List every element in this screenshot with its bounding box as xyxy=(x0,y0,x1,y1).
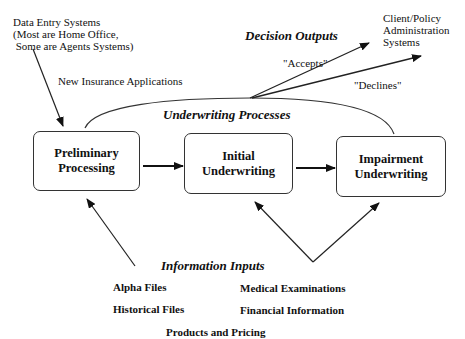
preliminary-processing-line-1: Preliminary xyxy=(54,146,118,161)
impairment-underwriting-line-1: Impairment xyxy=(355,152,428,167)
preliminary-processing-box[interactable]: Preliminary Processing xyxy=(33,131,140,191)
inputs-to-preliminary-arrow xyxy=(87,199,135,266)
accepts-arrow xyxy=(250,43,369,98)
information-inputs-heading: Information Inputs xyxy=(161,258,265,274)
initial-underwriting-line-2: Underwriting xyxy=(202,164,275,179)
financial-information-label: Financial Information xyxy=(240,304,344,316)
declines-arrow xyxy=(252,56,421,98)
impairment-underwriting-box[interactable]: Impairment Underwriting xyxy=(336,136,446,197)
accepts-label: "Accepts" xyxy=(283,57,327,69)
new-applications-arrow xyxy=(33,49,63,126)
data-entry-systems-label: Data Entry Systems (Most are Home Office… xyxy=(13,16,133,52)
data-entry-line-2: (Most are Home Office, xyxy=(13,28,133,40)
medical-examinations-label: Medical Examinations xyxy=(240,282,345,294)
client-policy-line-2: Administration xyxy=(383,24,450,36)
declines-label: "Declines" xyxy=(354,79,401,91)
preliminary-processing-line-2: Processing xyxy=(54,161,118,176)
client-policy-line-3: Systems xyxy=(383,36,450,48)
products-and-pricing-label: Products and Pricing xyxy=(166,326,265,338)
initial-underwriting-box[interactable]: Initial Underwriting xyxy=(184,133,293,194)
client-policy-line-1: Client/Policy xyxy=(383,12,450,24)
alpha-files-label: Alpha Files xyxy=(113,281,166,293)
data-entry-line-1: Data Entry Systems xyxy=(13,16,133,28)
client-policy-systems-label: Client/Policy Administration Systems xyxy=(383,12,450,48)
inputs-to-impairment-arrow xyxy=(313,203,379,262)
underwriting-processes-heading: Underwriting Processes xyxy=(163,107,290,123)
decision-outputs-heading: Decision Outputs xyxy=(245,28,338,44)
inputs-to-initial-arrow xyxy=(255,202,313,262)
initial-underwriting-line-1: Initial xyxy=(202,149,275,164)
impairment-underwriting-line-2: Underwriting xyxy=(355,167,428,182)
historical-files-label: Historical Files xyxy=(113,303,184,315)
new-insurance-applications-label: New Insurance Applications xyxy=(58,75,183,87)
data-entry-line-3: Some are Agents Systems) xyxy=(13,40,133,52)
